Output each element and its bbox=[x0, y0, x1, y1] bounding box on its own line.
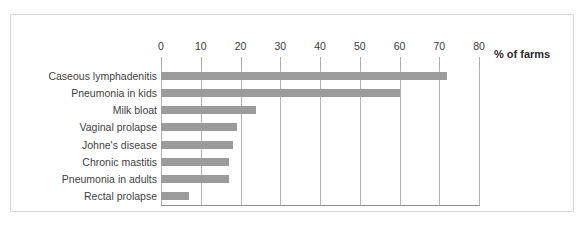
gridline bbox=[201, 67, 202, 205]
gridline bbox=[320, 67, 321, 205]
x-axis-tick-label: 10 bbox=[195, 40, 207, 52]
bar bbox=[161, 72, 447, 80]
x-axis-tick bbox=[280, 57, 281, 67]
category-label: Rectal prolapse bbox=[84, 190, 157, 202]
category-axis-labels: Caseous lymphadenitisPneumonia in kidsMi… bbox=[11, 67, 157, 205]
x-axis-tick bbox=[320, 57, 321, 67]
category-label: Milk bloat bbox=[113, 104, 157, 116]
category-label: Pneumonia in kids bbox=[71, 87, 157, 99]
category-label: Pneumonia in adults bbox=[62, 173, 157, 185]
gridline bbox=[439, 67, 440, 205]
x-axis-tick-label: 70 bbox=[433, 40, 445, 52]
bar bbox=[161, 106, 256, 114]
bar bbox=[161, 192, 189, 200]
gridline bbox=[161, 67, 162, 205]
bar bbox=[161, 89, 400, 97]
x-axis-tick-label: 30 bbox=[274, 40, 286, 52]
category-label: Caseous lymphadenitis bbox=[48, 70, 157, 82]
gridline bbox=[479, 67, 480, 205]
bar bbox=[161, 158, 229, 166]
gridline bbox=[360, 67, 361, 205]
x-axis-tick-label: 80 bbox=[473, 40, 485, 52]
bar bbox=[161, 141, 233, 149]
x-axis-line bbox=[161, 205, 480, 206]
chart-frame: Caseous lymphadenitisPneumonia in kidsMi… bbox=[10, 14, 574, 212]
category-label: Vaginal prolapse bbox=[80, 121, 157, 133]
x-axis-tick-label: 50 bbox=[354, 40, 366, 52]
x-axis-tick-label: 60 bbox=[394, 40, 406, 52]
x-axis-tick bbox=[161, 57, 162, 67]
gridline bbox=[280, 67, 281, 205]
x-axis-tick bbox=[400, 57, 401, 67]
x-axis-tick bbox=[439, 57, 440, 67]
x-axis-tick-label: 20 bbox=[235, 40, 247, 52]
x-axis-tick bbox=[360, 57, 361, 67]
gridline bbox=[400, 67, 401, 205]
category-label: Chronic mastitis bbox=[82, 156, 157, 168]
x-axis-tick bbox=[201, 57, 202, 67]
bar bbox=[161, 175, 229, 183]
x-axis-tick bbox=[241, 57, 242, 67]
x-axis-title: % of farms bbox=[494, 48, 550, 61]
plot-area: 01020304050607080 bbox=[161, 67, 479, 205]
bar bbox=[161, 123, 237, 131]
x-axis-tick bbox=[479, 57, 480, 67]
x-axis-tick-label: 0 bbox=[158, 40, 164, 52]
gridline bbox=[241, 67, 242, 205]
category-label: Johne's disease bbox=[82, 139, 157, 151]
x-axis-tick-label: 40 bbox=[314, 40, 326, 52]
